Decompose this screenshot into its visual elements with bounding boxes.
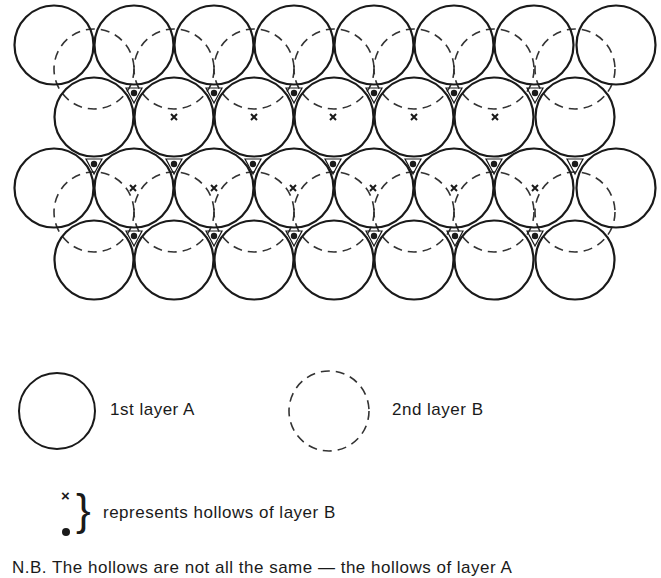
hollow-dot-icon — [91, 161, 97, 167]
hollow-cross-icon — [411, 114, 417, 120]
hollow-dot-icon — [291, 233, 297, 239]
hollow-dot-icon — [532, 90, 538, 96]
hollow-dot-icon — [491, 161, 497, 167]
layer-a-sphere — [536, 78, 615, 157]
hollow-cross-icon — [330, 114, 336, 120]
layer-a-sphere — [295, 221, 374, 300]
layer-a-sphere — [55, 221, 134, 300]
hollow-dot-icon — [291, 90, 297, 96]
layer-a-sphere — [577, 6, 656, 85]
hollow-dot-icon — [250, 161, 256, 167]
hollow-cross-icon — [290, 185, 296, 191]
hollow-dot-icon — [371, 90, 377, 96]
layer-b-sphere — [535, 172, 615, 252]
layer-a-sphere — [375, 221, 454, 300]
hollow-dot-icon — [371, 233, 377, 239]
hollow-dot-icon — [410, 161, 416, 167]
legend-dashed-circle-icon — [287, 368, 371, 454]
layer-a-circles — [15, 6, 656, 300]
legend-layer-b-label: 2nd layer B — [392, 400, 484, 420]
layer-a-sphere — [536, 221, 615, 300]
hollow-dot-icon — [452, 233, 458, 239]
layer-a-sphere — [55, 78, 134, 157]
hollow-dot-icon — [451, 90, 457, 96]
hollow-dot-icon — [131, 233, 137, 239]
hollow-dot-icon — [330, 161, 336, 167]
legend-dot-icon — [62, 528, 70, 536]
hollow-dot-icon — [572, 161, 578, 167]
hollow-dot-icon — [211, 233, 217, 239]
layer-a-sphere — [215, 221, 294, 300]
layer-a-sphere — [455, 221, 534, 300]
hollow-cross-icon — [251, 114, 257, 120]
hollow-dot-icon — [131, 90, 137, 96]
hollow-dot-icon — [171, 161, 177, 167]
legend-hollows-label: represents hollows of layer B — [103, 503, 336, 523]
layer-b-circles — [54, 29, 615, 252]
hollow-dot-icon — [532, 233, 538, 239]
hollow-cross-icon — [532, 185, 538, 191]
hollow-cross-icon — [492, 114, 498, 120]
legend-cross-icon: × — [61, 488, 70, 503]
hollow-cross-icon — [130, 185, 136, 191]
hollow-cross-icon — [171, 114, 177, 120]
layer-b-sphere — [535, 29, 615, 109]
hollow-dot-icon — [211, 90, 217, 96]
hollow-cross-icon — [211, 185, 217, 191]
legend-layer-a-label: 1st layer A — [110, 400, 195, 420]
close-packing-diagram — [0, 0, 661, 320]
legend-brace: } — [76, 488, 91, 532]
legend-solid-circle-icon — [16, 370, 100, 454]
hollow-cross-icon — [451, 185, 457, 191]
layer-a-sphere — [135, 221, 214, 300]
layer-a-sphere — [577, 149, 656, 228]
hollow-cross-icon — [370, 185, 376, 191]
footnote: N.B. The hollows are not all the same — … — [12, 558, 512, 578]
